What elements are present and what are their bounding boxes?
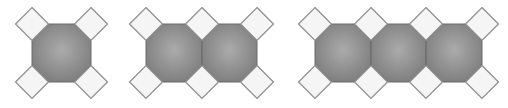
octagon-square-tiling-diagram <box>0 0 508 108</box>
octagon-tile <box>32 24 91 82</box>
diagram-canvas <box>0 0 508 108</box>
group-1-octagon <box>32 24 91 82</box>
group-3-octagons <box>315 24 482 82</box>
